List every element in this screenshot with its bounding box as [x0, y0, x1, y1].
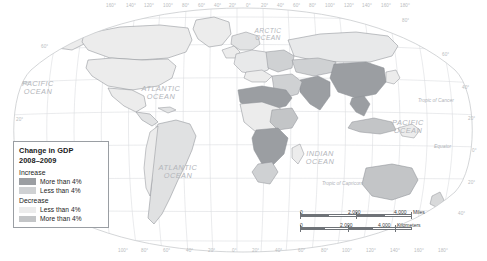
legend-item: More than 4% [19, 178, 103, 185]
map-legend: Change in GDP 2008–2009 IncreaseMore tha… [13, 141, 109, 228]
scale-km-max: 4,000 [378, 222, 391, 228]
region-eastern-europe [266, 50, 294, 72]
legend-item: Less than 4% [19, 187, 103, 194]
legend-heading-increase: Increase [19, 169, 103, 176]
legend-heading-decrease: Decrease [19, 197, 103, 204]
legend-groups: IncreaseMore than 4%Less than 4%Decrease… [19, 169, 103, 222]
scale-bar-miles: 0 2,000 4,000 Miles [300, 209, 428, 220]
legend-swatch [19, 216, 36, 223]
scale-bars: 0 2,000 4,000 Miles 0 2,000 4,000 Kilome… [300, 209, 428, 233]
scale-km-mid: 2,000 [340, 222, 353, 228]
scale-miles-unit: Miles [413, 209, 425, 215]
legend-title-line2: 2008–2009 [19, 156, 103, 166]
legend-title: Change in GDP 2008–2009 [19, 146, 103, 166]
legend-item-label: More than 4% [40, 215, 82, 222]
legend-swatch [19, 187, 36, 194]
legend-item: Less than 4% [19, 206, 103, 213]
legend-title-line1: Change in GDP [19, 146, 103, 156]
scale-km-zero: 0 [300, 222, 303, 228]
scale-km-unit: Kilometers [397, 222, 421, 228]
legend-item: More than 4% [19, 215, 103, 222]
scale-miles-max: 4,000 [394, 209, 407, 215]
legend-item-label: More than 4% [40, 178, 82, 185]
legend-item-label: Less than 4% [40, 206, 81, 213]
scale-bar-kilometers: 0 2,000 4,000 Kilometers [300, 222, 428, 233]
scale-miles-zero: 0 [300, 209, 303, 215]
legend-swatch [19, 178, 36, 185]
world-map-figure: ARCTICOCEANPACIFICOCEANATLANTICOCEANATLA… [0, 0, 487, 261]
legend-item-label: Less than 4% [40, 187, 81, 194]
scale-miles-mid: 2,000 [348, 209, 361, 215]
legend-swatch [19, 207, 36, 214]
